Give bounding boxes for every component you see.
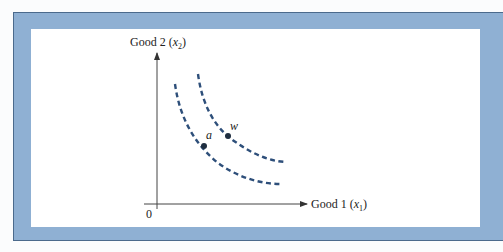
x-axis-label: Good 1 (x1) <box>311 197 367 213</box>
point-w-label: w <box>230 119 238 133</box>
point-a-label: a <box>206 128 212 142</box>
point-a-marker <box>201 143 207 149</box>
origin-label: 0 <box>146 207 152 221</box>
y-axis-label: Good 2 (x2) <box>130 35 186 51</box>
outer-indifference-curve <box>198 74 286 162</box>
point-w-marker <box>225 133 231 139</box>
